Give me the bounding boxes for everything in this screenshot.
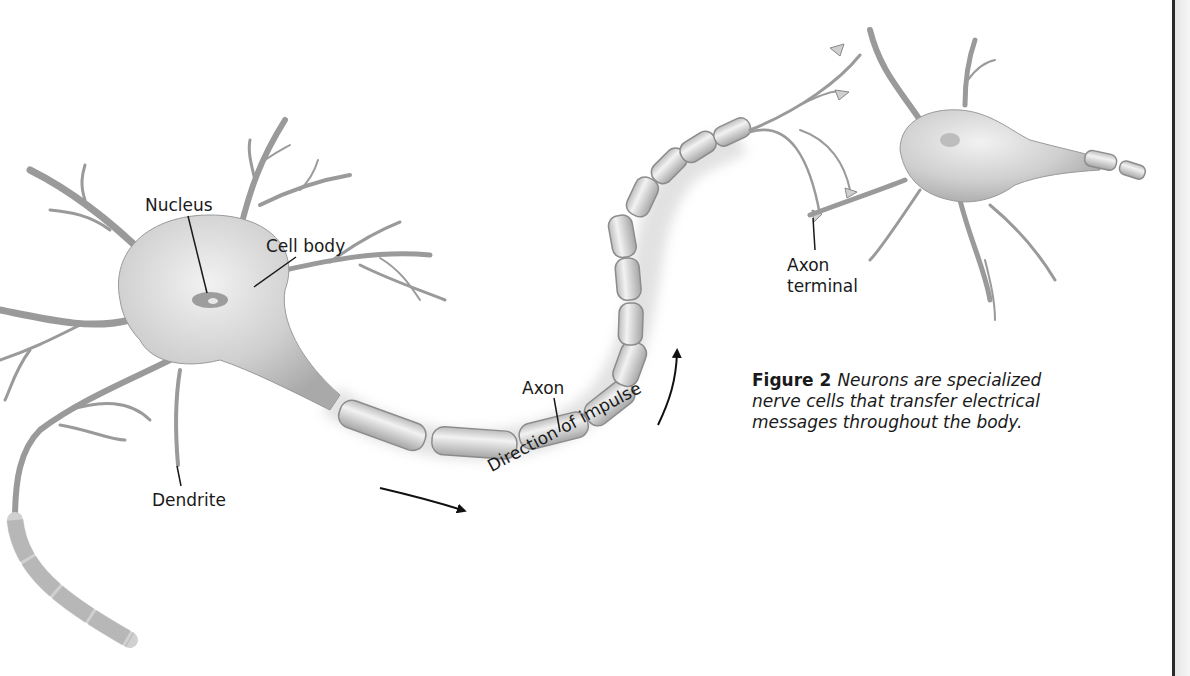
axon-shadow bbox=[330, 140, 740, 445]
lower-left-axon bbox=[15, 520, 130, 640]
neuron-illustration bbox=[0, 0, 1190, 676]
figure-number: Figure 2 bbox=[752, 370, 831, 390]
label-dendrite: Dendrite bbox=[152, 490, 226, 510]
label-nucleus: Nucleus bbox=[145, 195, 213, 215]
nucleolus-shape bbox=[208, 298, 218, 304]
axon-terminal-branches bbox=[750, 55, 860, 215]
textbook-page: Nucleus Cell body Dendrite Axon Axon ter… bbox=[0, 0, 1190, 676]
label-axon-terminal-line2: terminal bbox=[787, 276, 858, 296]
direction-arrow-right-icon bbox=[380, 488, 462, 510]
label-axon: Axon bbox=[522, 378, 564, 398]
right-cell-body-shape bbox=[900, 110, 1100, 202]
dendrite-leader-line bbox=[177, 466, 181, 486]
direction-arrow-up-icon bbox=[658, 353, 677, 425]
synaptic-knobs bbox=[812, 44, 857, 222]
right-nucleus-shape bbox=[940, 133, 960, 147]
figure-caption: Figure 2Neurons are specialized nerve ce… bbox=[752, 370, 1042, 433]
label-axon-terminal-line1: Axon bbox=[787, 255, 829, 275]
right-axon-segment bbox=[1083, 149, 1147, 181]
axon-terminal-leader-line bbox=[813, 218, 815, 250]
label-cell-body: Cell body bbox=[266, 236, 345, 256]
page-gutter bbox=[1175, 0, 1190, 676]
